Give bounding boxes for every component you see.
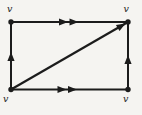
vertex-label-top-right: v [124,3,130,14]
vertex-label-bottom-left: v [3,93,9,104]
vertex-label-bottom-right: v [123,93,129,104]
vertex-dot-bottom-right [125,87,130,92]
vertex-label-top-left: v [7,3,13,14]
graph-diagram: v v v v [0,0,142,115]
diagram-background [0,0,142,115]
vertex-dot-top-right [125,19,130,24]
vertex-dot-bottom-left [8,87,13,92]
vertex-dot-top-left [8,19,13,24]
